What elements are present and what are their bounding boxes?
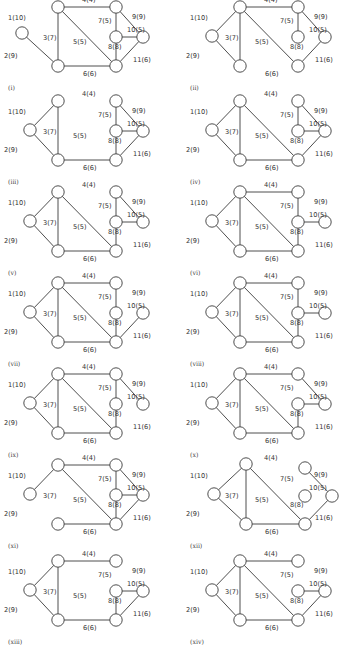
edge-label: 5(5) bbox=[73, 496, 87, 504]
edge-label: 3(7) bbox=[43, 34, 57, 42]
edge-label: 3(7) bbox=[225, 588, 239, 596]
graph-edge-e5 bbox=[240, 192, 298, 251]
graph-node bbox=[240, 458, 252, 470]
edge-label: 4(4) bbox=[82, 181, 96, 189]
graph-node bbox=[52, 154, 64, 166]
graph-panel: 1(10)2(9)3(7)4(4)5(5)6(6)7(5)8(8)9(9)10(… bbox=[186, 272, 333, 367]
edge-label: 11(6) bbox=[133, 514, 151, 522]
edge-label: 2(9) bbox=[4, 237, 18, 245]
edge-label: 7(5) bbox=[98, 293, 112, 301]
edge-label: 11(6) bbox=[133, 332, 151, 340]
graph-edge-e5 bbox=[240, 101, 298, 160]
graph-node bbox=[234, 368, 246, 380]
graph-node bbox=[52, 1, 64, 13]
edge-label: 3(7) bbox=[225, 401, 239, 409]
edge-label: 5(5) bbox=[255, 132, 269, 140]
graph-node bbox=[52, 336, 64, 348]
graph-edge-e5 bbox=[246, 464, 305, 524]
edge-label: 9(9) bbox=[132, 198, 146, 206]
graph-node bbox=[234, 1, 246, 13]
edge-label: 9(9) bbox=[132, 13, 146, 21]
edge-label: 3(7) bbox=[43, 401, 57, 409]
edge-label: 4(4) bbox=[82, 90, 96, 98]
edge-label: 2(9) bbox=[186, 510, 200, 518]
edge-label: 2(9) bbox=[4, 606, 18, 614]
edge-label: 2(9) bbox=[186, 237, 200, 245]
graph-node bbox=[52, 60, 64, 72]
panel-label: (xiii) bbox=[8, 638, 22, 645]
panel-label: (viii) bbox=[190, 360, 204, 367]
edge-label: 5(5) bbox=[255, 592, 269, 600]
edge-label: 7(5) bbox=[280, 571, 294, 579]
edge-label: 11(6) bbox=[315, 423, 333, 431]
edge-label: 1(10) bbox=[8, 199, 26, 207]
edge-label: 8(8) bbox=[108, 597, 122, 605]
graph-node bbox=[292, 585, 304, 597]
graph-node bbox=[206, 397, 218, 409]
edge-label: 7(5) bbox=[280, 17, 294, 25]
panel-label: (i) bbox=[8, 84, 15, 91]
graph-node bbox=[110, 216, 122, 228]
edge-label: 4(4) bbox=[82, 363, 96, 371]
edge-label: 1(10) bbox=[8, 568, 26, 576]
edge-label: 4(4) bbox=[264, 363, 278, 371]
edge-label: 10(5) bbox=[127, 484, 145, 492]
panel-label: (ix) bbox=[8, 451, 18, 458]
edge-label: 10(5) bbox=[309, 393, 327, 401]
edge-label: 8(8) bbox=[108, 228, 122, 236]
graph-panel: 1(10)2(9)3(7)4(4)5(5)6(6)7(5)8(8)9(9)10(… bbox=[186, 90, 333, 185]
graph-node bbox=[110, 368, 122, 380]
graph-node bbox=[110, 555, 122, 567]
edge-label: 9(9) bbox=[132, 471, 146, 479]
edge-label: 8(8) bbox=[108, 319, 122, 327]
graph-node bbox=[110, 307, 122, 319]
edge-label: 6(6) bbox=[83, 255, 97, 263]
edge-label: 7(5) bbox=[280, 202, 294, 210]
edge-label: 1(10) bbox=[190, 568, 208, 576]
graph-node bbox=[292, 336, 304, 348]
graph-node bbox=[24, 584, 36, 596]
edge-label: 10(5) bbox=[127, 211, 145, 219]
edge-label: 8(8) bbox=[108, 137, 122, 145]
edge-label: 5(5) bbox=[73, 314, 87, 322]
edge-label: 1(10) bbox=[8, 381, 26, 389]
edge-label: 6(6) bbox=[265, 255, 279, 263]
edge-label: 2(9) bbox=[4, 510, 18, 518]
graph-node bbox=[292, 125, 304, 137]
panel-label: (ii) bbox=[190, 84, 199, 91]
edge-label: 2(9) bbox=[4, 419, 18, 427]
graph-panel: 1(10)2(9)3(7)4(4)5(5)6(6)7(5)8(8)9(9)10(… bbox=[4, 272, 151, 367]
graph-node bbox=[52, 518, 64, 530]
edge-label: 4(4) bbox=[264, 0, 278, 4]
edge-label: 8(8) bbox=[290, 319, 304, 327]
edge-label: 7(5) bbox=[280, 293, 294, 301]
graph-node bbox=[24, 124, 36, 136]
graph-node bbox=[110, 489, 122, 501]
graph-node bbox=[110, 459, 122, 471]
edge-label: 8(8) bbox=[290, 501, 304, 509]
edge-label: 10(5) bbox=[309, 211, 327, 219]
edge-label: 6(6) bbox=[83, 528, 97, 536]
edge-label: 1(10) bbox=[190, 381, 208, 389]
edge-label: 10(5) bbox=[309, 484, 327, 492]
edge-label: 1(10) bbox=[190, 14, 208, 22]
edge-label: 9(9) bbox=[132, 107, 146, 115]
graph-node bbox=[299, 462, 311, 474]
edge-label: 1(10) bbox=[190, 472, 208, 480]
graph-panel: 1(10)2(9)3(7)4(4)5(5)6(6)7(5)8(8)9(9)10(… bbox=[4, 363, 151, 458]
edge-label: 8(8) bbox=[108, 43, 122, 51]
graph-node bbox=[52, 555, 64, 567]
edge-label: 4(4) bbox=[264, 181, 278, 189]
edge-label: 3(7) bbox=[225, 34, 239, 42]
edge-label: 5(5) bbox=[73, 405, 87, 413]
graph-node bbox=[292, 216, 304, 228]
graph-node bbox=[110, 614, 122, 626]
graph-panel: 1(10)2(9)3(7)4(4)5(5)6(6)7(5)8(8)9(9)10(… bbox=[186, 550, 333, 645]
graph-node bbox=[292, 307, 304, 319]
graph-panel: 1(10)2(9)3(7)4(4)5(5)6(6)7(5)8(8)9(9)10(… bbox=[4, 90, 151, 185]
graph-node bbox=[110, 277, 122, 289]
graph-node bbox=[206, 124, 218, 136]
graph-edge-e5 bbox=[240, 7, 298, 66]
edge-label: 11(6) bbox=[133, 610, 151, 618]
graph-edge-e5 bbox=[58, 374, 116, 433]
